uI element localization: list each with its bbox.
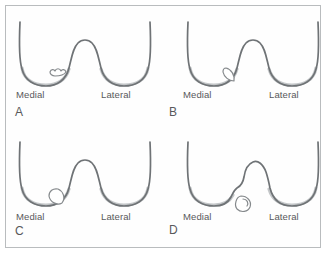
femoral-condyle-outline	[19, 142, 150, 206]
condyle-shadow	[269, 68, 316, 85]
panel-b-orientation-labels: Medial Lateral	[164, 89, 322, 103]
lesion-partially-detached-fragment	[49, 189, 64, 204]
osteochondritis-dissecans-figure: Medial Lateral A Medial Lateral B Medi	[0, 0, 326, 254]
medial-label: Medial	[16, 211, 45, 222]
lateral-label: Lateral	[269, 211, 299, 222]
condyle-shadow	[101, 68, 148, 85]
panel-a-orientation-labels: Medial Lateral	[6, 89, 164, 103]
panel-b: Medial Lateral B	[164, 6, 322, 126]
panel-c-orientation-labels: Medial Lateral	[6, 211, 164, 225]
panel-c: Medial Lateral C	[6, 126, 164, 246]
femoral-condyle-outline-with-crater	[187, 142, 318, 206]
panel-d-orientation-labels: Medial Lateral	[164, 211, 322, 225]
femoral-condyle-outline	[19, 22, 150, 86]
panel-letter-b: B	[169, 105, 177, 119]
condyle-shadow	[101, 188, 148, 205]
lesion-in-situ-fragment	[223, 68, 234, 81]
medial-label: Medial	[16, 89, 45, 100]
panel-c-condyle-drawing	[6, 126, 164, 246]
panel-a-condyle-drawing	[6, 6, 164, 126]
panel-d-condyle-drawing	[164, 126, 322, 246]
medial-label: Medial	[183, 89, 212, 100]
lateral-label: Lateral	[101, 211, 131, 222]
panel-letter-d: D	[169, 223, 178, 237]
lesion-irregular-softening-flap	[50, 69, 66, 76]
condyle-shadow	[269, 188, 316, 205]
lateral-label: Lateral	[101, 89, 131, 100]
panel-letter-a: A	[15, 105, 23, 119]
panel-letter-c: C	[15, 224, 24, 238]
lateral-label: Lateral	[269, 89, 299, 100]
medial-label: Medial	[183, 211, 212, 222]
panel-b-condyle-drawing	[164, 6, 322, 126]
panel-d: Medial Lateral D	[164, 126, 322, 246]
femoral-condyle-outline	[187, 22, 318, 86]
panel-a: Medial Lateral A	[6, 6, 164, 126]
